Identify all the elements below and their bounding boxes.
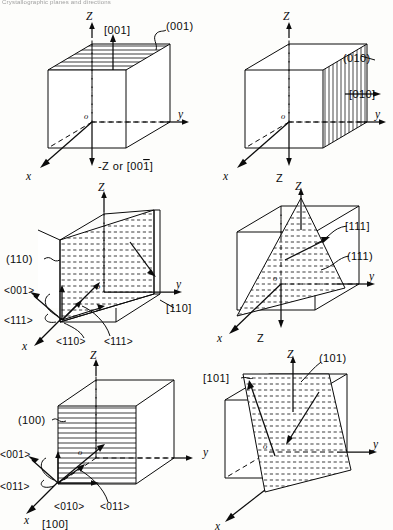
dir-family-111b: <111>	[104, 336, 133, 347]
dir-family-110: <110>	[56, 336, 86, 347]
axis-label-x: x	[23, 514, 30, 526]
plane-label-101: (101)	[319, 352, 347, 364]
axis-label-x: x	[25, 170, 32, 182]
dir-family-001: <001>	[4, 285, 34, 296]
page-header-text: Crystallographic planes and directions	[2, 0, 111, 5]
panel-101: Z y y x o (101) [101]	[197, 352, 393, 530]
panel-001: Z y x o [001] (001) -Z or [001]	[0, 8, 196, 188]
panel-010: Z y x o Z (010) [010]	[197, 8, 393, 188]
dir-family-010: <010>	[54, 501, 84, 512]
axis-label-z-up: Z	[90, 349, 97, 361]
axis-label-z-up: Z	[86, 10, 93, 22]
direction-label-001: [001]	[104, 24, 130, 36]
direction-label-111: [111]	[345, 220, 370, 232]
origin-label: o	[281, 111, 285, 121]
plane-label-001: (001)	[166, 20, 194, 32]
direction-label-101: [101]	[203, 372, 229, 384]
axis-label-x: x	[222, 170, 229, 182]
leader-100-011a	[41, 480, 54, 487]
axis-label-y: y	[374, 108, 381, 121]
axis-label-x: x	[216, 332, 223, 344]
axis-label-z-up: Z	[98, 181, 105, 193]
axis-label-z-up: Z	[287, 348, 294, 360]
axis-label-x: x	[214, 520, 221, 530]
origin-label: o	[96, 281, 100, 291]
origin-label: o	[263, 441, 267, 451]
axis-label-y: y	[175, 278, 182, 291]
panel-110: (110) <001> <111> <110> <111> [110] Z y …	[0, 182, 196, 352]
axis-label-z-down: Z	[257, 332, 264, 344]
origin-label: o	[78, 447, 82, 457]
axis-label-y: y	[372, 438, 379, 451]
direction-label-110: [110]	[166, 302, 192, 314]
dir-family-011b: <011>	[100, 501, 130, 512]
negative-axis-label-001: -Z or [001]	[98, 160, 153, 172]
plane-label-010: (010)	[343, 52, 371, 64]
axis-label-y2: y	[202, 446, 209, 459]
dir-family-111a: <111>	[4, 315, 33, 326]
origin-label: o	[84, 111, 88, 121]
direction-label-010: [010]	[349, 88, 375, 100]
leader-100-001	[41, 458, 54, 480]
axis-label-z-up: Z	[283, 10, 290, 22]
dir-family-011a: <011>	[0, 481, 30, 492]
plane-label-110: (110)	[6, 253, 33, 265]
axis-label-x: x	[21, 340, 28, 352]
panel-100: (100) <001> <011> <010> <011> [100] Z x …	[0, 352, 196, 530]
plane-label-111: (111)	[347, 250, 373, 262]
dir-family-001: <001>	[0, 449, 30, 460]
leader-110-111a	[45, 314, 56, 322]
axis-label-y: y	[177, 108, 184, 121]
direction-label-100: [100]	[42, 518, 68, 530]
axis-label-y: y	[368, 270, 375, 283]
figure-sheet: Crystallographic planes and directions	[0, 0, 393, 530]
origin-label: o	[273, 273, 277, 283]
panel-111: Z y x o Z [111] (111)	[197, 182, 393, 352]
axis-label-z-up: Z	[295, 180, 302, 192]
plane-label-100: (100)	[18, 414, 46, 426]
